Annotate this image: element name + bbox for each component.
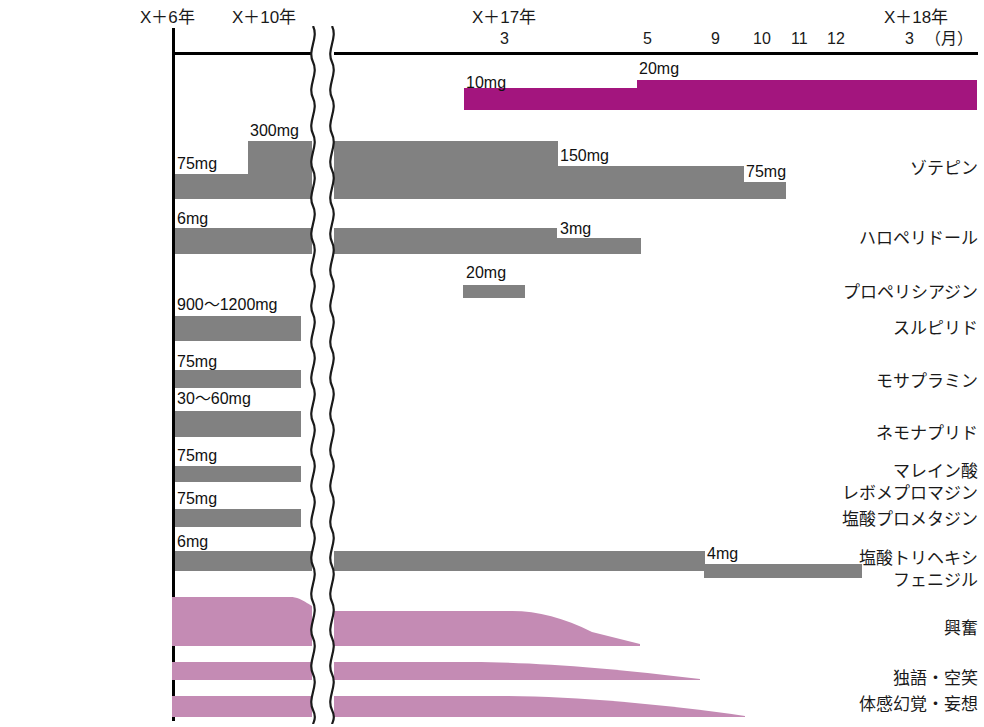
axis-unit-label: （月） xyxy=(925,30,973,48)
axis-month-label: 12 xyxy=(827,30,845,48)
row-label-promethazine-hydrochloride: 塩酸プロメタジン xyxy=(816,509,984,530)
dose-zotepine-75mg-end: 75mg xyxy=(746,163,786,181)
row-label-haloperidol: ハロペリドール xyxy=(816,228,984,249)
row-label-excitement: 興奮 xyxy=(816,618,984,639)
bar-trihexyphenidyl-6mg xyxy=(175,551,705,571)
row-label-somatic-hallucination: 体感幻覚・妄想 xyxy=(816,694,984,715)
bar-promethazine-hydrochloride xyxy=(175,509,301,527)
axis-month-label: 11 xyxy=(791,30,808,48)
row-label-zotepine: ゾテピン xyxy=(816,158,984,179)
band-somatic-hallucination xyxy=(172,696,745,717)
dose-nemonapride: 30〜60mg xyxy=(177,390,251,408)
bar-mosapramine xyxy=(175,370,301,388)
axis-month-label: 9 xyxy=(711,30,720,48)
dose-zotepine-150mg: 150mg xyxy=(560,147,609,165)
timeline-chart: X＋6年 X＋10年 X＋17年 X＋18年 3 5 9 10 11 12 3 … xyxy=(0,0,984,727)
dose-mosapramine: 75mg xyxy=(177,353,217,371)
row-label-levomepromazine-maleate-line1: マレイン酸 xyxy=(816,461,984,482)
bar-haloperidol-3mg xyxy=(556,238,641,254)
axis-horizontal-line xyxy=(172,52,978,55)
row-label-levomepromazine-maleate-line2: レボメプロマジン xyxy=(816,483,984,504)
dose-promethazine-hydrochloride: 75mg xyxy=(177,490,217,508)
bar-zotepine-150mg xyxy=(556,166,744,199)
axis-year-label: X＋10年 xyxy=(232,8,296,27)
dose-zotepine-300mg: 300mg xyxy=(250,122,299,140)
bar-propericiazine-20mg xyxy=(463,285,525,298)
row-label-mosapramine: モサプラミン xyxy=(816,371,984,392)
dose-trihexyphenidyl-6mg: 6mg xyxy=(177,533,208,551)
bar-nemonapride xyxy=(175,411,301,437)
bar-trihexyphenidyl-4mg xyxy=(704,564,862,578)
bar-levomepromazine-maleate xyxy=(175,466,301,482)
row-label-sulpiride: スルピリド xyxy=(816,318,984,339)
dose-olanzapine-20mg: 20mg xyxy=(639,60,679,78)
axis-year-label: X＋17年 xyxy=(472,8,536,27)
axis-month-label: 3 xyxy=(905,30,914,48)
band-excitement xyxy=(172,597,640,646)
band-soliloquy xyxy=(172,662,700,680)
bar-haloperidol-6mg xyxy=(175,228,557,254)
axis-month-label: 5 xyxy=(643,30,652,48)
row-label-propericiazine: プロペリシアジン xyxy=(816,282,984,303)
symptom-bands xyxy=(172,596,772,727)
dose-haloperidol-3mg: 3mg xyxy=(560,220,591,238)
dose-sulpiride: 900〜1200mg xyxy=(177,296,278,314)
axis-year-label: X＋18年 xyxy=(884,8,948,27)
dose-levomepromazine-maleate: 75mg xyxy=(177,447,217,465)
axis-year-label: X＋6年 xyxy=(140,8,195,27)
dose-haloperidol-6mg: 6mg xyxy=(177,210,208,228)
dose-olanzapine-10mg: 10mg xyxy=(466,74,506,92)
row-label-soliloquy: 独語・空笑 xyxy=(816,668,984,689)
axis-month-label: 3 xyxy=(500,30,509,48)
bar-zotepine-75mg-end xyxy=(742,182,786,199)
dose-propericiazine-20mg: 20mg xyxy=(466,264,506,282)
dose-zotepine-75mg-start: 75mg xyxy=(177,155,217,173)
dose-trihexyphenidyl-4mg: 4mg xyxy=(707,545,738,563)
bar-sulpiride xyxy=(175,316,301,341)
bar-zotepine-75mg-start xyxy=(175,174,250,199)
axis-month-label: 10 xyxy=(753,30,771,48)
bar-zotepine-300mg xyxy=(248,141,558,199)
row-label-nemonapride: ネモナプリド xyxy=(816,423,984,444)
bar-olanzapine-20mg xyxy=(637,80,977,110)
